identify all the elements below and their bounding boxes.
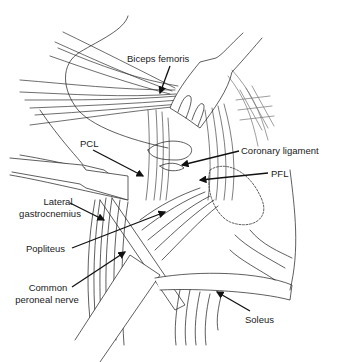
- label-common-peroneal-nerve-line2: peroneal nerve: [12, 294, 82, 305]
- label-lateral-gastrocnemius-line1: Lateral: [33, 196, 83, 207]
- arrow-coronary-ligament: [182, 151, 239, 165]
- label-common-peroneal-nerve-line1: Common: [27, 282, 69, 293]
- arrow-pcl: [93, 150, 143, 176]
- arrow-biceps-femoris: [160, 66, 170, 93]
- label-biceps-femoris: Biceps femoris: [127, 53, 189, 64]
- arrow-soleus: [217, 292, 250, 311]
- anatomical-diagram: Biceps femoris PCL Coronary ligament PFL…: [0, 0, 337, 362]
- arrow-pfl: [200, 173, 268, 180]
- label-popliteus: Popliteus: [26, 243, 65, 254]
- label-coronary-ligament: Coronary ligament: [241, 145, 319, 156]
- arrow-common-peroneal-nerve-2: [72, 252, 125, 287]
- label-soleus: Soleus: [245, 314, 274, 325]
- label-pcl: PCL: [80, 138, 98, 149]
- arrow-popliteus: [72, 212, 165, 248]
- label-lateral-gastrocnemius-line2: gastrocnemius: [15, 208, 85, 219]
- label-pfl: PFL: [271, 168, 288, 179]
